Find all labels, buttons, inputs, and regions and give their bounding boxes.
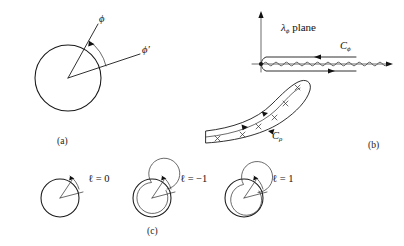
panel-c-label-0: ℓ = 0 [88,173,109,184]
panel-c-tag: (c) [147,226,158,236]
figure-container: ϕ ϕ′ (a) [0,0,404,246]
panel-c-graphics [0,0,404,246]
panel-c-spiral-1 [137,158,180,213]
panel-c-label-2: ℓ = 1 [272,173,293,184]
panel-c-label-1: ℓ = −1 [180,173,207,184]
panel-c-spiral-2 [231,162,273,216]
